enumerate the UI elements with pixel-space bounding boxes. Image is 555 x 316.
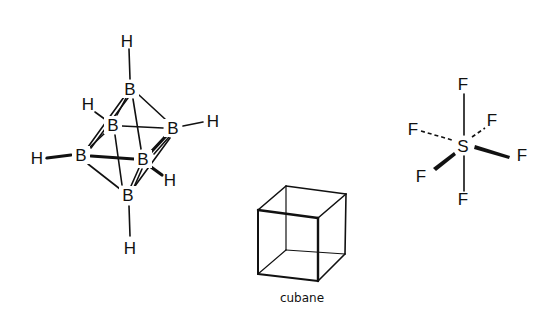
atom-f-top: F <box>458 75 468 94</box>
bond-bleft-h <box>47 155 71 158</box>
atom-b-front-right: B <box>137 150 148 169</box>
atom-f-left: F <box>408 120 418 139</box>
atom-f-lower-left: F <box>416 167 426 186</box>
edge-right-bottom <box>318 254 345 281</box>
bond-s-f-left-dashed <box>421 131 452 140</box>
edge-top-right <box>318 194 346 218</box>
bond-s-f-right-wedge <box>474 145 510 159</box>
edge-back-diag <box>258 250 286 274</box>
atom-b-top: B <box>124 80 135 99</box>
bond-s-f-upper-right-dashed <box>472 128 485 137</box>
atom-b-left: B <box>75 146 86 165</box>
bond-btop-htop <box>129 49 130 79</box>
atom-b-upper-left-back: B <box>107 116 118 135</box>
bond-s-f-lower-left-wedge <box>433 152 456 171</box>
figure-canvas: H B H B B H H B B H B H cubane <box>0 0 555 316</box>
sf6-molecule: F F F S F F F <box>408 75 527 209</box>
edge-top-back <box>286 186 346 194</box>
bond-bbot-hbot <box>129 206 130 236</box>
edge-top-left <box>258 186 286 210</box>
bond-bback-bbot <box>115 135 122 185</box>
atom-h-right: H <box>207 112 219 131</box>
edge-back-bottom <box>286 250 345 254</box>
cubane-cube: cubane <box>258 186 346 305</box>
bond-bback-bright <box>122 126 163 128</box>
borane-cluster: H B H B B H H B B H B H <box>31 32 219 258</box>
cubane-label: cubane <box>280 291 324 305</box>
bond-btop-bright <box>139 95 165 119</box>
bond-bfront-h <box>151 167 162 175</box>
edge-right-back <box>345 194 346 254</box>
edge-front-top <box>258 210 318 218</box>
atom-b-bottom: B <box>122 186 133 205</box>
atom-b-right: B <box>167 119 178 138</box>
atom-h-bottom: H <box>124 239 136 258</box>
atom-h-top: H <box>121 32 133 51</box>
bond-bleft-bbot <box>88 164 120 189</box>
edge-front-bottom <box>258 274 318 281</box>
atom-s-center: S <box>457 137 468 156</box>
atom-f-bottom: F <box>458 190 468 209</box>
atom-f-right: F <box>517 146 527 165</box>
bond-btop-bfront <box>133 99 141 149</box>
atom-h-front-right: H <box>164 171 176 190</box>
bond-bright-h <box>183 122 203 126</box>
bond-bleft-bfront <box>91 156 134 159</box>
atom-h-upper-left: H <box>82 95 94 114</box>
atom-h-left: H <box>31 149 43 168</box>
atom-f-upper-right: F <box>487 111 497 130</box>
